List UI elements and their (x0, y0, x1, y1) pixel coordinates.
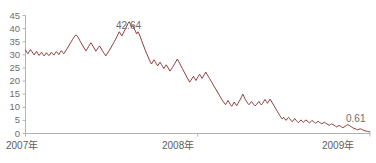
annotation-last-value: 0.61 (346, 113, 365, 124)
x-tick-label-2008: 2008年 (162, 140, 194, 152)
x-tick-label-2007: 2007年 (6, 140, 38, 152)
x-tick-label-2009: 2009年 (322, 140, 354, 152)
y-axis-tick-label: 15 (0, 89, 20, 99)
y-axis-tick-label: 0 (0, 129, 20, 139)
annotation-peak-value: 42.64 (116, 20, 141, 31)
chart-plot-area (0, 0, 376, 163)
y-axis-tick-label: 30 (0, 50, 20, 60)
price-line-series (26, 22, 371, 132)
y-axis-tick-label: 20 (0, 76, 20, 86)
stock-price-chart: 051015202530354045 2007年 2008年 2009年 42.… (0, 0, 376, 163)
y-axis-tick-label: 35 (0, 37, 20, 47)
y-axis-tick-label: 40 (0, 24, 20, 34)
y-axis-tick-label: 45 (0, 11, 20, 21)
y-axis-tick-label: 25 (0, 63, 20, 73)
y-axis-tick-label: 10 (0, 102, 20, 112)
y-axis (23, 16, 26, 134)
x-axis (26, 134, 371, 137)
y-axis-tick-label: 5 (0, 115, 20, 125)
